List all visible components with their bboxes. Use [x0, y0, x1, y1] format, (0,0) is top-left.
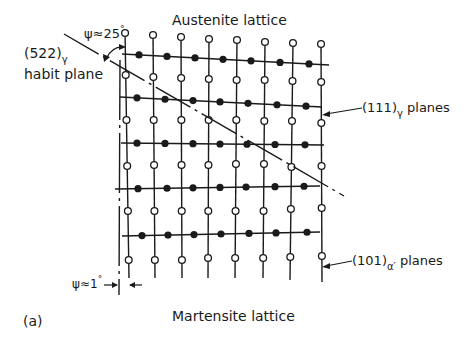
vertical-lattice-line [125, 30, 129, 278]
filled-atom [133, 94, 140, 101]
filled-atom [303, 229, 310, 236]
austenite-lattice-title: Austenite lattice [172, 13, 287, 27]
martensite-lattice-title: Martensite lattice [172, 309, 295, 323]
filled-atom [271, 141, 278, 148]
filled-atom [161, 140, 168, 147]
filled-atom [161, 96, 168, 103]
open-atom [289, 78, 296, 85]
open-atom [150, 117, 157, 124]
austenite-planes-pointer [326, 108, 362, 114]
filled-atom [133, 140, 140, 147]
open-atom [234, 37, 241, 44]
austenite-planes-label: (111)γ planes [362, 101, 450, 114]
open-atom [261, 161, 268, 168]
filled-atom [273, 101, 280, 108]
filled-atom [189, 140, 196, 147]
open-atom [151, 208, 158, 215]
psi-25-label: ψ≈25° [84, 27, 125, 40]
filled-atom [300, 183, 307, 190]
open-atom [178, 117, 185, 124]
open-atom [318, 163, 325, 170]
filled-atom [135, 51, 142, 58]
filled-atom [271, 183, 278, 190]
open-atom [318, 205, 325, 212]
open-atom [287, 206, 294, 213]
open-atom [318, 79, 325, 86]
lattice-diagram [0, 0, 466, 344]
vertical-lattice-line [153, 32, 155, 278]
open-atom [290, 40, 297, 47]
martensite-vertical-lines [125, 30, 322, 282]
open-atom [122, 72, 129, 79]
filled-atom [191, 54, 198, 61]
filled-atom [164, 231, 171, 238]
open-atom [150, 32, 157, 39]
filled-atom [189, 184, 196, 191]
filled-atom [245, 230, 252, 237]
habit-plane-text: habit plane [24, 67, 103, 81]
arc-arrowhead-icon [103, 54, 110, 62]
open-atom [260, 255, 267, 262]
arrowhead-right-icon [112, 282, 118, 288]
filled-atom [247, 57, 254, 64]
filled-atom [276, 59, 283, 66]
filled-atom [189, 97, 196, 104]
habit-plane-indices: (522)γ [24, 46, 68, 60]
filled-atom [163, 185, 170, 192]
open-atom [178, 208, 185, 215]
psi-1-label: ψ≈1° [72, 278, 102, 290]
open-atom [151, 257, 158, 264]
open-atom [179, 257, 186, 264]
open-atom [233, 77, 240, 84]
reference-vertical-line [119, 60, 120, 295]
filled-atom [302, 103, 309, 110]
open-atom [261, 77, 268, 84]
open-atom [233, 117, 240, 124]
filled-atom [216, 98, 223, 105]
open-atom [205, 76, 212, 83]
open-atom [318, 120, 325, 127]
filled-atom [305, 60, 312, 67]
open-atom [289, 118, 296, 125]
vertical-lattice-line [181, 34, 182, 278]
filled-atom [134, 185, 141, 192]
open-atom [205, 208, 212, 215]
open-atom [205, 162, 212, 169]
filled-atom [219, 56, 226, 63]
open-atom [178, 162, 185, 169]
filled-atom [272, 229, 279, 236]
filled-atom [216, 184, 223, 191]
open-circle-atoms [122, 30, 326, 264]
filled-atom [301, 141, 308, 148]
filled-atom [242, 183, 249, 190]
filled-atom [190, 231, 197, 238]
panel-label: (a) [23, 314, 43, 328]
open-atom [150, 74, 157, 81]
open-atom [124, 163, 131, 170]
vertical-lattice-line [263, 39, 265, 278]
filled-atom [244, 100, 251, 107]
open-atom [178, 34, 185, 41]
arrowhead-left-icon [322, 111, 330, 117]
open-atom [260, 208, 267, 215]
open-atom [151, 162, 158, 169]
open-atom [125, 257, 132, 264]
filled-atom [138, 232, 145, 239]
open-atom [262, 39, 269, 46]
vertical-lattice-line [235, 37, 237, 278]
open-atom [287, 254, 294, 261]
open-atom [318, 253, 325, 260]
open-atom [205, 255, 212, 262]
filled-atom [216, 140, 223, 147]
open-atom [261, 118, 268, 125]
arrowhead-left-icon [129, 282, 135, 288]
open-atom [318, 41, 325, 48]
vertical-lattice-line [208, 36, 209, 278]
open-atom [206, 36, 213, 43]
open-atom [233, 161, 240, 168]
martensite-planes-label: (101)α′ planes [352, 254, 443, 267]
filled-atom [163, 53, 170, 60]
open-atom [232, 208, 239, 215]
open-atom [123, 117, 130, 124]
filled-atom [217, 230, 224, 237]
